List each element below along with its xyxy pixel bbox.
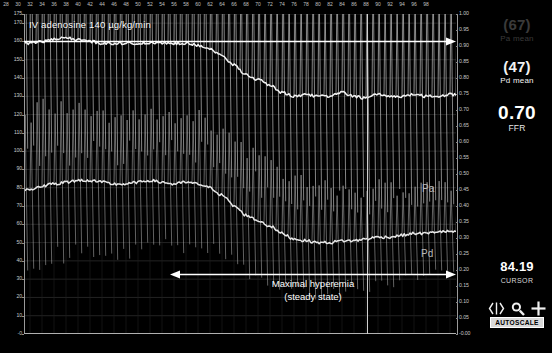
ffr-tick-mark bbox=[456, 30, 458, 31]
cursor-readout: 84.19 CURSOR bbox=[482, 258, 552, 286]
ffr-tick-label: 0.45 bbox=[459, 187, 469, 192]
time-tick-label: 40 bbox=[75, 2, 81, 7]
time-tick-label: 52 bbox=[147, 2, 153, 7]
ffr-tick-mark bbox=[456, 126, 458, 127]
ffr-tick-mark bbox=[456, 334, 458, 335]
ffr-tick-label: 0.15 bbox=[459, 283, 469, 288]
time-tick-label: 92 bbox=[387, 2, 393, 7]
time-tick-label: 96 bbox=[411, 2, 417, 7]
ffr-tick-mark bbox=[456, 238, 458, 239]
time-tick-label: 60 bbox=[195, 2, 201, 7]
pressure-tick-mark bbox=[22, 334, 24, 335]
ffr-tick-mark bbox=[456, 302, 458, 303]
time-tick-label: 36 bbox=[51, 2, 57, 7]
time-tick-label: 84 bbox=[339, 2, 345, 7]
time-tick-label: 54 bbox=[159, 2, 165, 7]
ffr-tick-label: 0.90 bbox=[459, 43, 469, 48]
time-tick-label: 76 bbox=[291, 2, 297, 7]
time-tick-label: 64 bbox=[219, 2, 225, 7]
time-tick-label: 62 bbox=[207, 2, 213, 7]
time-tick-label: 78 bbox=[303, 2, 309, 7]
time-axis: 2830323436384042444648505254565860626466… bbox=[0, 0, 432, 12]
hyperemia-line-2: (steady state) bbox=[170, 291, 456, 304]
time-tick-label: 38 bbox=[63, 2, 69, 7]
ffr-tick-mark bbox=[456, 286, 458, 287]
ffr-tick-mark bbox=[456, 222, 458, 223]
ffr-tick-mark bbox=[456, 318, 458, 319]
ffr-tick-mark bbox=[456, 270, 458, 271]
crosshair-icon[interactable] bbox=[530, 300, 547, 317]
ffr-tick-label: 0.80 bbox=[459, 75, 469, 80]
hyperemia-annotation-label: Maximal hyperemia (steady state) bbox=[170, 278, 456, 303]
ffr-axis-right: 1.000.950.900.850.800.750.700.650.600.55… bbox=[456, 14, 482, 334]
time-tick-label: 32 bbox=[27, 2, 33, 7]
ffr-tick-mark bbox=[456, 62, 458, 63]
pd-trace-label: Pd bbox=[421, 248, 433, 259]
time-tick-label: 50 bbox=[135, 2, 141, 7]
ffr-tick-mark bbox=[456, 110, 458, 111]
ffr-tick-label: 0.70 bbox=[459, 107, 469, 112]
time-tick-label: 68 bbox=[243, 2, 249, 7]
time-tick-label: 48 bbox=[123, 2, 129, 7]
time-tick-label: 94 bbox=[399, 2, 405, 7]
time-tick-label: 88 bbox=[363, 2, 369, 7]
time-tick-label: 44 bbox=[99, 2, 105, 7]
ffr-tick-label: 0.20 bbox=[459, 267, 469, 272]
ffr-value: 0.70 bbox=[482, 102, 552, 123]
magnifier-icon[interactable] bbox=[509, 300, 526, 317]
time-tick-label: 80 bbox=[315, 2, 321, 7]
pressure-tick-label: 170 bbox=[14, 20, 22, 25]
pressure-tick-label: 120 bbox=[14, 112, 22, 117]
autoscale-button[interactable]: AUTOSCALE bbox=[490, 317, 544, 328]
ffr-tick-label: 1.00 bbox=[459, 11, 469, 16]
calipers-icon[interactable] bbox=[488, 300, 505, 317]
time-tick-label: 90 bbox=[375, 2, 381, 7]
time-tick-label: 82 bbox=[327, 2, 333, 7]
ffr-tick-mark bbox=[456, 142, 458, 143]
ffr-readout: 0.70 FFR bbox=[482, 102, 552, 134]
ffr-tick-mark bbox=[456, 78, 458, 79]
ffr-tick-mark bbox=[456, 190, 458, 191]
time-tick-label: 74 bbox=[279, 2, 285, 7]
pressure-tick-label: 150 bbox=[14, 57, 22, 62]
ffr-tick-label: -0.00 bbox=[459, 331, 470, 336]
ffr-tick-label: 0.55 bbox=[459, 155, 469, 160]
ffr-monitor-screen: 1751701601501401301201101009080706050403… bbox=[0, 0, 552, 353]
ffr-tick-label: 0.50 bbox=[459, 171, 469, 176]
pressure-tick-label: 160 bbox=[14, 38, 22, 43]
time-tick-label: 42 bbox=[87, 2, 93, 7]
time-tick-label: 34 bbox=[39, 2, 45, 7]
ffr-tick-label: 0.95 bbox=[459, 27, 469, 32]
ffr-tick-label: 0.30 bbox=[459, 235, 469, 240]
ffr-tick-mark bbox=[456, 174, 458, 175]
drug-duration-arrow bbox=[24, 37, 456, 46]
pa-trace-label: Pa bbox=[422, 183, 434, 194]
pd-mean-label: Pd mean bbox=[482, 75, 552, 86]
time-tick-label: 98 bbox=[423, 2, 429, 7]
pressure-tick-label: 110 bbox=[14, 130, 22, 135]
ffr-label: FFR bbox=[482, 123, 552, 134]
cursor-value: 84.19 bbox=[482, 258, 552, 275]
ffr-tick-mark bbox=[456, 46, 458, 47]
time-tick-label: 56 bbox=[171, 2, 177, 7]
time-tick-label: 70 bbox=[255, 2, 261, 7]
pd-mean-value: (47) bbox=[482, 58, 552, 75]
ffr-tick-mark bbox=[456, 158, 458, 159]
time-tick-label: 46 bbox=[111, 2, 117, 7]
pressure-tick-label: 140 bbox=[14, 75, 22, 80]
ffr-tick-label: 0.35 bbox=[459, 219, 469, 224]
pd-mean-readout: (47) Pd mean bbox=[482, 58, 552, 86]
time-tick-label: 66 bbox=[231, 2, 237, 7]
ffr-tick-label: 0.65 bbox=[459, 123, 469, 128]
pa-mean-value: (67) bbox=[482, 16, 552, 33]
pressure-axis-left: 1751701601501401301201101009080706050403… bbox=[0, 14, 24, 334]
ffr-tick-mark bbox=[456, 94, 458, 95]
ffr-tick-label: 0.75 bbox=[459, 91, 469, 96]
hyperemia-line-1: Maximal hyperemia bbox=[170, 278, 456, 291]
pa-mean-label: Pa mean bbox=[482, 33, 552, 44]
pressure-tick-label: 100 bbox=[14, 148, 22, 153]
time-tick-label: 86 bbox=[351, 2, 357, 7]
ffr-tick-mark bbox=[456, 206, 458, 207]
cursor-label: CURSOR bbox=[482, 275, 552, 286]
time-axis-rule bbox=[24, 333, 456, 334]
